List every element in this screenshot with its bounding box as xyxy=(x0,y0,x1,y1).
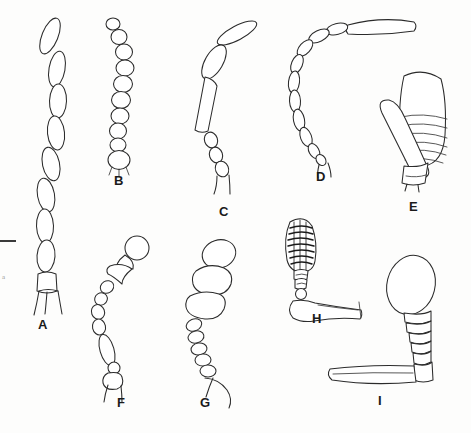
figure-label-i: I xyxy=(378,394,382,407)
figure-label-d: D xyxy=(316,170,326,183)
figure-label-c: C xyxy=(219,205,229,218)
figure-A-drawing xyxy=(34,15,68,315)
figure-label-b: B xyxy=(114,174,124,187)
margin-mark: a xyxy=(2,274,5,281)
figure-label-e: E xyxy=(409,200,418,213)
antenna-drawings xyxy=(0,0,471,433)
figure-label-g: G xyxy=(200,396,211,409)
antenna-plate: a A B C D E F G H I xyxy=(0,0,471,433)
figure-F-drawing xyxy=(89,236,149,402)
scale-bar xyxy=(0,240,16,242)
figure-G-drawing xyxy=(184,235,239,408)
figure-label-h: H xyxy=(312,312,322,325)
figure-E-drawing xyxy=(380,72,447,192)
figure-label-a: A xyxy=(38,318,48,331)
figure-label-f: F xyxy=(117,396,125,409)
figure-H-drawing xyxy=(286,219,362,322)
figure-B-drawing xyxy=(106,18,134,176)
figure-C-drawing xyxy=(195,16,260,194)
figure-D-drawing xyxy=(287,20,416,178)
